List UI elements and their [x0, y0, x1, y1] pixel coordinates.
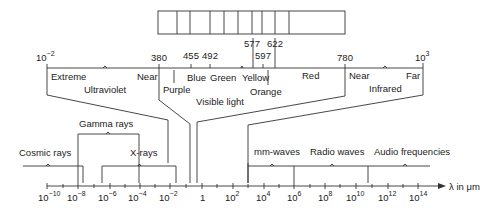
axis-label: 10−2 — [159, 190, 178, 203]
label-radio-waves: Radio waves — [310, 146, 365, 157]
label-orange: Orange — [250, 86, 282, 97]
axis-label: 1010 — [346, 190, 364, 203]
upper-region-labels: Extreme Near Ultraviolet Purple Blue Gre… — [51, 70, 420, 107]
band-labels: Gamma rays Cosmic rays X-rays mm-waves R… — [19, 118, 450, 158]
axis-tick-labels: 10−10 10−8 10−6 10−4 10−2 1 102 104 106 … — [38, 181, 480, 203]
label-green: Green — [210, 72, 236, 83]
axis-label: 1014 — [409, 190, 427, 203]
upper-axis-right-label: 103 — [415, 50, 430, 63]
axis-label: 10−10 — [38, 190, 61, 203]
label-gamma-rays: Gamma rays — [79, 118, 134, 129]
tick-380: 380 — [151, 52, 167, 63]
axis-label: 10−8 — [67, 190, 86, 203]
axis-label: 1012 — [378, 190, 396, 203]
label-red: Red — [302, 70, 319, 81]
tick-492: 492 — [202, 50, 218, 61]
tick-577: 577 — [244, 38, 260, 49]
label-ultraviolet: Ultraviolet — [84, 84, 127, 95]
upper-axis-left-label: 10−2 — [36, 50, 55, 63]
tick-597: 597 — [255, 50, 271, 61]
label-near-uv: Near — [137, 71, 158, 82]
label-far-ir: Far — [406, 70, 420, 81]
axis-label: 108 — [318, 190, 333, 203]
axis-arrow-icon — [438, 183, 446, 189]
axis-label: 10−6 — [98, 190, 117, 203]
label-extreme: Extreme — [51, 71, 86, 82]
axis-label: 104 — [256, 190, 271, 203]
label-cosmic-rays: Cosmic rays — [19, 147, 72, 158]
axis-label: 1 — [200, 192, 205, 203]
connector-lines — [47, 95, 423, 183]
label-near-ir: Near — [349, 70, 370, 81]
tick-455: 455 — [183, 50, 199, 61]
label-x-rays: X-rays — [130, 147, 158, 158]
wavelength-axis — [47, 183, 446, 189]
label-mm-waves: mm-waves — [254, 146, 300, 157]
axis-unit-label: λ in μm — [449, 181, 480, 192]
label-audio-frequencies: Audio frequencies — [374, 146, 450, 157]
axis-label: 10−4 — [128, 190, 147, 203]
label-purple: Purple — [163, 84, 190, 95]
visible-wavelength-labels: 577 622 380 455 492 597 780 — [151, 38, 353, 63]
axis-label: 106 — [287, 190, 302, 203]
label-blue: Blue — [187, 72, 206, 83]
em-spectrum-diagram: 577 622 380 455 492 597 780 10−2 103 Ext… — [0, 0, 495, 210]
tick-780: 780 — [337, 52, 353, 63]
label-infrared: Infrared — [369, 83, 402, 94]
color-bar — [158, 11, 345, 34]
axis-label: 102 — [225, 190, 240, 203]
band-brackets — [23, 132, 430, 183]
label-yellow: Yellow — [242, 72, 269, 83]
label-visible-light: Visible light — [196, 96, 244, 107]
